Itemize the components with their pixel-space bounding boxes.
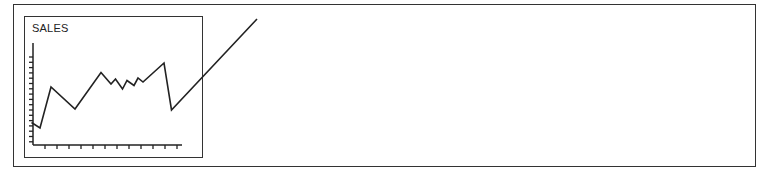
sales-chart (0, 0, 763, 175)
chart-axes (33, 43, 182, 145)
sales-line (32, 19, 258, 128)
